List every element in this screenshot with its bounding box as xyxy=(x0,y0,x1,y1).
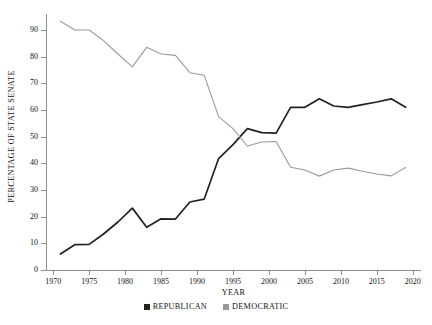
x-tick-mark xyxy=(341,271,342,275)
y-tick-label: 20 xyxy=(16,213,38,221)
x-tick-label: 2015 xyxy=(357,277,397,286)
series-lines xyxy=(46,14,420,270)
x-tick-label: 1990 xyxy=(177,277,217,286)
x-tick-mark xyxy=(161,271,162,275)
series-line-republican xyxy=(60,99,405,254)
y-tick-label: 80 xyxy=(16,53,38,61)
legend-swatch-icon xyxy=(223,304,229,310)
x-tick-label: 2020 xyxy=(393,277,432,286)
series-line-democratic xyxy=(60,21,405,176)
x-tick-label: 1970 xyxy=(33,277,73,286)
y-axis-title-text: PERCENTAGE OF STATE SENATE xyxy=(7,70,16,203)
y-tick-mark xyxy=(41,270,46,271)
y-tick-label: 60 xyxy=(16,106,38,114)
y-tick-label: 50 xyxy=(16,133,38,141)
x-tick-mark xyxy=(377,271,378,275)
x-axis-title: YEAR xyxy=(46,288,421,297)
legend-label: REPUBLICAN xyxy=(153,302,207,311)
legend-swatch-icon xyxy=(144,304,150,310)
x-tick-mark xyxy=(197,271,198,275)
chart-figure: PERCENTAGE OF STATE SENATE 0102030405060… xyxy=(0,0,432,325)
y-tick-label: 10 xyxy=(16,239,38,247)
x-tick-label: 1980 xyxy=(105,277,145,286)
legend-item-republican[interactable]: REPUBLICAN xyxy=(144,302,207,311)
x-tick-mark xyxy=(53,271,54,275)
x-tick-mark xyxy=(233,271,234,275)
y-tick-label: 40 xyxy=(16,159,38,167)
x-tick-mark xyxy=(269,271,270,275)
plot-area xyxy=(46,14,420,270)
y-tick-label: 70 xyxy=(16,79,38,87)
x-tick-label: 1995 xyxy=(213,277,253,286)
x-tick-mark xyxy=(413,271,414,275)
chart-legend: REPUBLICANDEMOCRATIC xyxy=(0,302,432,311)
x-tick-mark xyxy=(305,271,306,275)
x-tick-label: 2005 xyxy=(285,277,325,286)
x-tick-label: 2000 xyxy=(249,277,289,286)
x-tick-label: 1975 xyxy=(69,277,109,286)
legend-label: DEMOCRATIC xyxy=(232,302,288,311)
legend-item-democratic[interactable]: DEMOCRATIC xyxy=(223,302,288,311)
x-tick-mark xyxy=(89,271,90,275)
x-tick-label: 2010 xyxy=(321,277,361,286)
y-tick-label: 30 xyxy=(16,186,38,194)
y-tick-label: 90 xyxy=(16,26,38,34)
x-tick-mark xyxy=(125,271,126,275)
x-tick-label: 1985 xyxy=(141,277,181,286)
y-tick-label: 0 xyxy=(16,266,38,274)
